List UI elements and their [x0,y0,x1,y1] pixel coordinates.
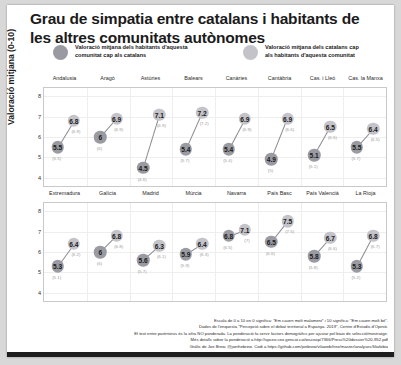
data-label-unweighted: (6.8) [114,243,123,248]
facet-panel: 5.3(5.2)6.8(6.7) [343,203,386,301]
data-label-weighted: 6.4 [369,125,378,132]
facet-row-2: ExtremaduraGalíciaMadridMúrciaNavarraPaí… [29,190,387,302]
data-label-weighted: 5.1 [310,152,319,159]
data-label-unweighted: (5.1) [52,275,61,280]
facet-title: Balears [184,75,202,81]
data-label-weighted: 6.5 [267,238,276,245]
facet-title: Cantàbria [268,75,291,81]
data-label-weighted: 6.3 [155,242,164,249]
data-label-weighted: 6.8 [112,232,121,239]
bottom-bar [7,352,394,357]
data-label-unweighted: (6.9) [114,126,123,131]
y-axis-tick: 8 [27,93,41,99]
data-label-weighted: 6.4 [198,240,207,247]
facet-panel: 5.1(5.1)6.5(6.5) [301,88,344,186]
data-label-unweighted: (5) [268,168,273,173]
data-label-unweighted: (6.9) [242,126,251,131]
facet-title: Andalusia [53,75,77,81]
facet-strip-1: AndalusiaAragóAstúriesBalearsCanàriesCan… [43,75,387,87]
facet-title: Cas. i Lleó [310,75,335,81]
facet-title: Navarra [227,190,246,196]
data-label-weighted: 6.9 [240,115,249,122]
data-label-unweighted: (6.3) [200,251,209,256]
y-axis-tick: 4 [27,290,41,296]
facet-panel: 6.8(6.5)7.1(7) [215,203,258,301]
facet-panel: 5.3(5.1)6.4(6.2) [44,203,87,301]
data-label-weighted: 5.8 [310,253,319,260]
data-label-unweighted: (6.6) [328,245,337,250]
facet-title: Galícia [99,190,116,196]
data-label-unweighted: (6) [97,261,102,266]
facet-panel: 4.5(4.6)7.1(6.9) [130,88,173,186]
y-axis-tick: 5 [27,154,41,160]
data-label-weighted: 6.9 [112,115,121,122]
data-label-weighted: 5.3 [352,263,361,270]
data-label-weighted: 5.3 [53,263,62,270]
facet-title: Madrid [142,190,158,196]
data-label-unweighted: (7) [244,237,249,242]
facet-title: Cas. la Manxa [348,75,382,81]
y-axis-tick: 8 [27,208,41,214]
data-label-weighted: 6.5 [326,123,335,130]
data-label-weighted: 5.4 [181,146,190,153]
facet-title: Aragó [100,75,114,81]
facet-panel: 5.4(5.4)6.9(6.9) [215,88,258,186]
facet-title: Astúries [141,75,160,81]
facet-panel: 5.5(5.7)6.4(6.5) [343,88,386,186]
y-axis-label: Valoració mitjana (0-10) [6,29,16,125]
facet-panel: 6(6)6.8(6.8) [87,203,130,301]
data-label-unweighted: (6.2) [71,251,80,256]
data-label-weighted: 4.9 [267,156,276,163]
facet-panel: 6(6)6.9(6.9) [87,88,130,186]
data-label-unweighted: (6.1) [157,253,166,258]
data-label-weighted: 6 [99,134,103,141]
data-label-unweighted: (5.7) [180,158,189,163]
legend-swatch-habitants [53,45,68,60]
facet-title: Múrcia [185,190,201,196]
data-label-unweighted: (4.6) [138,176,147,181]
data-label-weighted: 5.5 [352,144,361,151]
facet-panel: 6.5(6.6)7.5(7.5) [258,203,301,301]
data-label-unweighted: (6.7) [371,243,380,248]
legend-label-habitants: Valoració mitjana dels habitants d'aques… [75,43,188,60]
data-label-weighted: 5.9 [181,251,190,258]
facet-plot-area-1: 876545.5(5.5)6.8(6.9)6(6)6.9(6.9)4.5(4.6… [43,87,387,187]
data-label-weighted: 6.8 [369,232,378,239]
data-label-unweighted: (5.7) [138,269,147,274]
facet-panel: 5.9(5.9)6.4(6.3) [172,203,215,301]
data-label-weighted: 6.9 [283,115,292,122]
facet-panel: 5.6(5.7)6.3(6.1) [130,203,173,301]
y-axis-tick: 6 [27,134,41,140]
data-label-unweighted: (7.2) [200,120,209,125]
data-label-weighted: 5.5 [53,144,62,151]
facet-title: Extremadura [49,190,80,196]
facet-strip-2: ExtremaduraGalíciaMadridMúrciaNavarraPaí… [43,190,387,202]
facet-row-1: AndalusiaAragóAstúriesBalearsCanàriesCan… [29,75,387,187]
data-label-unweighted: (5.4) [223,158,232,163]
data-label-weighted: 6.7 [326,234,335,241]
y-axis-tick: 5 [27,269,41,275]
data-label-weighted: 7.1 [240,226,249,233]
data-label-unweighted: (5.9) [180,263,189,268]
data-label-weighted: 5.6 [139,257,148,264]
data-label-weighted: 6 [99,249,103,256]
chart-footnotes: Escala de 0 a 10 on 0 significa: "Em cau… [15,318,388,351]
data-label-weighted: 4.5 [139,164,148,171]
y-axis-tick: 7 [27,114,41,120]
facet-panel: 5.8(5.8)6.7(6.6) [301,203,344,301]
facet-title: La Rioja [356,190,376,196]
data-label-unweighted: (5.1) [309,164,318,169]
data-label-unweighted: (7.5) [285,229,294,234]
legend-item-habitants: Valoració mitjana dels habitants d'aques… [53,43,188,60]
data-label-unweighted: (6.6) [285,126,294,131]
data-label-unweighted: (5.7) [351,156,360,161]
data-label-weighted: 6.8 [69,117,78,124]
data-label-unweighted: (5.5) [52,156,61,161]
y-axis-tick: 6 [27,249,41,255]
data-label-unweighted: (6.5) [371,136,380,141]
y-axis-tick: 7 [27,229,41,235]
legend-swatch-catalans [243,45,258,60]
footnote-line-5: Gràfic de Joe Brew, @joethebrew. Codi a … [15,344,388,351]
facet-panel: 5.5(5.5)6.8(6.9) [44,88,87,186]
facet-plot-area-2: 876545.3(5.1)6.4(6.2)6(6)6.8(6.8)5.6(5.7… [43,202,387,302]
